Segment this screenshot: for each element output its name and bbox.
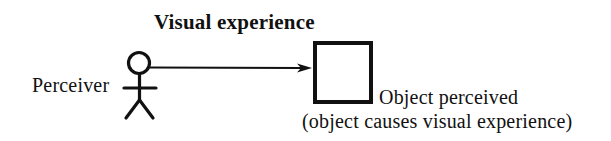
subject-label-perceiver: Perceiver — [32, 75, 109, 95]
object-rectangle-shape — [315, 43, 371, 102]
object-note-label: (object causes visual experience) — [302, 111, 572, 131]
object-label-object-perceived: Object perceived — [379, 87, 518, 107]
perception-diagram: Visual experience Perceiver Object perce… — [0, 0, 611, 141]
relation-label-visual-experience: Visual experience — [154, 12, 315, 33]
